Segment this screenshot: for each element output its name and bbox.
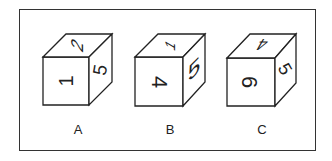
cube-a-label: A [68, 122, 88, 137]
cube-b-label: B [160, 122, 180, 137]
cube-a-front-digit: 1 [55, 75, 77, 86]
cube-c-front-digit: 6 [237, 76, 262, 88]
cube-b-front-digit: 4 [147, 76, 172, 88]
cube-c-label: C [252, 122, 272, 137]
